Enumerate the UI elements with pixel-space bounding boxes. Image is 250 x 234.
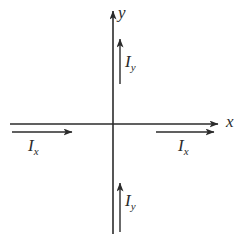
current-label-ix-left: Ix — [28, 137, 39, 157]
current-label-ix-right-subscript: x — [184, 145, 189, 157]
current-label-iy-upper: Iy — [125, 53, 136, 73]
current-label-iy-lower-subscript: y — [131, 200, 136, 212]
y-axis-label: y — [118, 4, 126, 21]
x-axis-label: x — [226, 113, 234, 130]
current-label-iy-upper-subscript: y — [131, 61, 136, 73]
current-label-ix-right: Ix — [178, 137, 189, 157]
coordinate-axes-figure: x y Ix Ix Iy Iy — [0, 0, 250, 234]
current-label-iy-lower: Iy — [125, 192, 136, 212]
current-label-ix-left-subscript: x — [34, 145, 39, 157]
